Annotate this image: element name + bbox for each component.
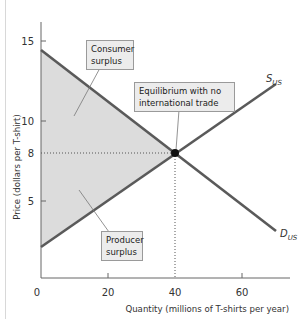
x-tick-label-40: 40 xyxy=(169,287,182,298)
demand-curve-label: DUS xyxy=(280,228,298,242)
equilibrium-callout: Equilibrium with no international trade xyxy=(134,82,235,112)
x-tick-label-0: 0 xyxy=(34,287,40,298)
y-tick-label-8: 8 xyxy=(28,148,34,159)
y-tick-label-15: 15 xyxy=(21,36,34,47)
producer-surplus-label-line1: Producer xyxy=(106,234,138,246)
x-axis-label: Quantity (millions of T-shirts per year) xyxy=(125,304,289,314)
x-tick-label-20: 20 xyxy=(102,287,115,298)
y-tick-label-5: 5 xyxy=(28,196,34,207)
producer-surplus-label-line2: surplus xyxy=(106,246,138,258)
x-tick-label-60: 60 xyxy=(236,287,249,298)
consumer-surplus-label-line1: Consumer xyxy=(91,43,129,55)
y-tick-label-10: 10 xyxy=(21,116,34,127)
supply-demand-chart: 15 10 8 5 0 20 40 60 Price (dollars per … xyxy=(0,0,306,319)
producer-surplus-callout: Producer surplus xyxy=(101,231,143,261)
equilibrium-label-line1: Equilibrium with no xyxy=(139,85,230,97)
equilibrium-point xyxy=(171,149,179,157)
equilibrium-leader xyxy=(176,110,179,150)
y-axis-label: Price (dollars per T-shirt) xyxy=(12,114,22,220)
consumer-surplus-label-line2: surplus xyxy=(91,55,129,67)
equilibrium-label-line2: international trade xyxy=(139,97,230,109)
supply-curve-label: SUS xyxy=(266,73,282,87)
consumer-surplus-callout: Consumer surplus xyxy=(86,40,134,70)
